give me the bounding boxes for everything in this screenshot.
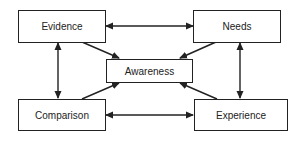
node-comparison-label: Comparison xyxy=(35,110,89,121)
node-experience-label: Experience xyxy=(216,110,266,121)
node-awareness-label: Awareness xyxy=(125,66,174,77)
node-evidence-label: Evidence xyxy=(41,21,82,32)
node-comparison: Comparison xyxy=(18,99,106,131)
node-needs: Needs xyxy=(193,10,281,43)
edge-comparison-awareness xyxy=(82,83,119,99)
edge-evidence-awareness xyxy=(82,42,119,58)
edge-needs-awareness xyxy=(180,42,216,58)
edge-experience-awareness xyxy=(180,83,217,99)
node-experience: Experience xyxy=(194,99,288,131)
node-awareness: Awareness xyxy=(106,59,193,83)
node-evidence: Evidence xyxy=(18,10,106,43)
node-needs-label: Needs xyxy=(223,21,252,32)
